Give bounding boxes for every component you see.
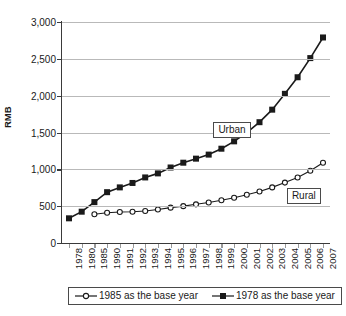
x-tick-label: 1985 bbox=[98, 248, 109, 269]
data-point-circle bbox=[321, 160, 326, 165]
y-tick-label: 500 bbox=[39, 201, 56, 212]
x-tick-label: 1980 bbox=[86, 248, 97, 269]
x-tick-label: 1996 bbox=[187, 248, 198, 269]
x-tick-mark bbox=[158, 244, 159, 248]
data-point-circle bbox=[143, 208, 148, 213]
x-tick-label: 2006 bbox=[314, 248, 325, 269]
data-point-square bbox=[117, 184, 123, 190]
data-point-circle bbox=[219, 198, 224, 203]
data-point-square bbox=[142, 174, 148, 180]
data-point-circle bbox=[117, 210, 122, 215]
data-point-circle bbox=[130, 209, 135, 214]
x-tick-mark bbox=[209, 244, 210, 248]
x-tick-mark bbox=[310, 244, 311, 248]
chart-container: RMB 05001,0001,5002,0002,5003,000 Urban … bbox=[0, 0, 346, 316]
data-point-circle bbox=[105, 210, 110, 215]
data-point-circle bbox=[295, 175, 300, 180]
y-tick-label: 2,000 bbox=[31, 90, 56, 101]
legend-entry-1985[interactable]: 1985 as the base year bbox=[75, 290, 198, 301]
y-tick-mark bbox=[57, 96, 61, 97]
annotation-rural: Rural bbox=[287, 188, 321, 204]
data-point-square bbox=[193, 156, 199, 162]
x-tick-mark bbox=[272, 244, 273, 248]
x-tick-label: 1992 bbox=[137, 248, 148, 269]
x-tick-mark bbox=[94, 244, 95, 248]
x-tick-mark bbox=[221, 244, 222, 248]
data-point-square bbox=[295, 74, 301, 80]
data-point-square bbox=[269, 107, 275, 113]
data-point-square bbox=[231, 138, 237, 144]
data-point-circle bbox=[282, 180, 287, 185]
x-tick-label: 1978 bbox=[73, 248, 84, 269]
gridline bbox=[62, 169, 330, 170]
data-point-circle bbox=[257, 189, 262, 194]
legend-marker-filled-square-icon bbox=[212, 291, 234, 301]
data-point-circle bbox=[92, 212, 97, 217]
x-tick-label: 2002 bbox=[264, 248, 275, 269]
x-tick-mark bbox=[247, 244, 248, 248]
y-tick-mark bbox=[57, 59, 61, 60]
data-point-square bbox=[218, 146, 224, 152]
data-point-circle bbox=[155, 207, 160, 212]
data-point-square bbox=[320, 34, 326, 40]
x-tick-label: 2005 bbox=[302, 248, 313, 269]
x-tick-mark bbox=[323, 244, 324, 248]
legend-label-1978: 1978 as the base year bbox=[236, 290, 335, 301]
x-tick-mark bbox=[145, 244, 146, 248]
x-tick-label: 1995 bbox=[175, 248, 186, 269]
y-tick-mark bbox=[57, 169, 61, 170]
legend-label-1985: 1985 as the base year bbox=[99, 290, 198, 301]
gridline bbox=[62, 206, 330, 207]
x-tick-mark bbox=[171, 244, 172, 248]
x-tick-label: 2007 bbox=[327, 248, 338, 269]
gridline bbox=[62, 59, 330, 60]
y-tick-label: 2,500 bbox=[31, 53, 56, 64]
gridline bbox=[62, 22, 330, 23]
annotation-urban: Urban bbox=[213, 122, 250, 138]
y-axis-tick-labels: 05001,0001,5002,0002,5003,000 bbox=[0, 0, 56, 316]
x-tick-mark bbox=[120, 244, 121, 248]
data-point-square bbox=[155, 170, 161, 176]
x-tick-mark bbox=[285, 244, 286, 248]
y-tick-mark bbox=[57, 22, 61, 23]
x-tick-label: 1999 bbox=[225, 248, 236, 269]
x-tick-mark bbox=[298, 244, 299, 248]
chart-legend: 1985 as the base year 1978 as the base y… bbox=[68, 287, 342, 305]
x-tick-label: 2004 bbox=[289, 248, 300, 269]
x-tick-mark bbox=[196, 244, 197, 248]
x-tick-mark bbox=[183, 244, 184, 248]
x-tick-mark bbox=[69, 244, 70, 248]
x-tick-label: 1994 bbox=[162, 248, 173, 269]
x-tick-label: 1990 bbox=[111, 248, 122, 269]
data-point-square bbox=[79, 209, 85, 215]
data-point-circle bbox=[270, 185, 275, 190]
y-tick-mark bbox=[57, 133, 61, 134]
x-tick-mark bbox=[260, 244, 261, 248]
y-tick-label: 1,000 bbox=[31, 164, 56, 175]
x-tick-label: 1993 bbox=[149, 248, 160, 269]
gridline bbox=[62, 133, 330, 134]
legend-entry-1978[interactable]: 1978 as the base year bbox=[212, 290, 335, 301]
x-tick-mark bbox=[133, 244, 134, 248]
y-tick-label: 1,500 bbox=[31, 127, 56, 138]
plot-area bbox=[62, 22, 330, 243]
data-point-square bbox=[104, 189, 110, 195]
data-point-square bbox=[130, 180, 136, 186]
x-tick-label: 2000 bbox=[238, 248, 249, 269]
legend-marker-open-circle-icon bbox=[75, 291, 97, 301]
y-tick-label: 0 bbox=[50, 238, 56, 249]
x-tick-mark bbox=[234, 244, 235, 248]
data-point-circle bbox=[206, 200, 211, 205]
y-tick-label: 3,000 bbox=[31, 17, 56, 28]
y-tick-mark bbox=[57, 243, 61, 244]
data-point-square bbox=[180, 160, 186, 166]
x-tick-mark bbox=[107, 244, 108, 248]
x-tick-label: 1991 bbox=[124, 248, 135, 269]
x-tick-mark bbox=[82, 244, 83, 248]
x-tick-label: 1998 bbox=[213, 248, 224, 269]
x-tick-label: 2001 bbox=[251, 248, 262, 269]
x-tick-label: 2003 bbox=[276, 248, 287, 269]
y-tick-mark bbox=[57, 206, 61, 207]
gridline bbox=[62, 96, 330, 97]
data-point-circle bbox=[232, 195, 237, 200]
